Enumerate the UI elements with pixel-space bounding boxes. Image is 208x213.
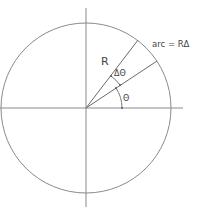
theta-label: Θ — [123, 94, 129, 103]
delta-theta-tick-b — [110, 75, 112, 77]
theta-arc — [116, 88, 122, 108]
diagram-canvas: R ΔΘ Θ arc = RΔ — [0, 0, 208, 213]
radius-label: R — [101, 55, 109, 68]
arc-label: arc = RΔ — [152, 39, 190, 49]
radius-line-outer — [86, 40, 138, 108]
delta-theta-tick-a — [119, 84, 121, 86]
theta-arc-tick-start — [115, 87, 117, 89]
circle-arc-diagram: R ΔΘ Θ arc = RΔ — [0, 0, 208, 213]
delta-theta-label: ΔΘ — [114, 69, 126, 78]
theta-arc-tick-end — [121, 107, 123, 109]
